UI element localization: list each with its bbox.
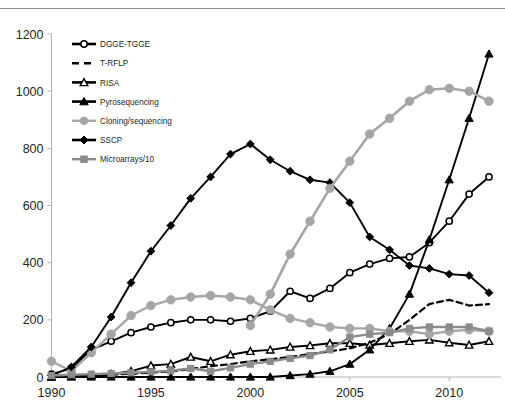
data-point-marker (386, 330, 392, 336)
data-point-marker (147, 301, 155, 309)
y-tick-label: 400 (23, 256, 44, 270)
data-point-marker (346, 157, 354, 165)
data-point-marker (306, 217, 314, 225)
data-point-marker (446, 324, 452, 330)
data-point-marker (485, 50, 493, 57)
data-point-marker (406, 338, 413, 345)
data-point-marker (306, 176, 314, 184)
x-tick-label: 2000 (236, 386, 264, 400)
series-line (250, 88, 489, 325)
data-point-marker (385, 114, 393, 122)
legend-item-label: SSCP (100, 136, 123, 145)
data-point-marker (465, 341, 472, 348)
data-point-marker (465, 87, 473, 95)
data-point-marker (446, 339, 453, 346)
data-point-marker (486, 328, 492, 334)
data-point-marker (425, 86, 433, 94)
legend-item-label: T-RFLP (100, 59, 129, 68)
data-point-marker (207, 368, 213, 374)
data-point-marker (108, 338, 114, 344)
y-tick-label: 1200 (16, 28, 44, 42)
legend-item-dgge-tgge: DGGE-TGGE (72, 40, 151, 49)
data-point-marker (148, 369, 154, 375)
data-point-marker (346, 324, 354, 332)
data-point-marker (406, 325, 412, 331)
legend-item-label: RISA (100, 79, 120, 88)
data-point-marker (128, 330, 134, 336)
data-point-marker (168, 320, 174, 326)
data-point-marker (367, 331, 373, 337)
series-line (52, 177, 490, 374)
data-point-marker (47, 357, 55, 365)
data-point-marker (405, 97, 413, 105)
data-point-marker (168, 368, 174, 374)
data-point-marker (80, 117, 88, 125)
data-point-marker (287, 355, 293, 361)
data-point-marker (48, 372, 54, 378)
y-axis-ticks: 020040060080010001200 (16, 28, 52, 385)
top-divider-rule (0, 8, 505, 9)
data-point-marker (81, 41, 87, 47)
data-point-marker (287, 288, 293, 294)
y-tick-label: 0 (37, 371, 44, 385)
x-tick-label: 1995 (137, 386, 165, 400)
y-tick-label: 1000 (16, 85, 44, 99)
data-point-marker (425, 264, 433, 272)
y-tick-label: 200 (23, 313, 44, 327)
data-point-marker (226, 293, 234, 301)
y-tick-label: 600 (23, 199, 44, 213)
legend-item-label: Pyrosequencing (100, 98, 159, 107)
data-point-marker (485, 97, 493, 105)
legend-item-microarrays-10: Microarrays/10 (72, 155, 155, 164)
data-point-marker (227, 351, 234, 358)
legend-item-sscp: SSCP (72, 136, 123, 145)
data-point-marker (326, 184, 334, 192)
y-tick-label: 800 (23, 142, 44, 156)
data-point-marker (167, 296, 175, 304)
data-point-marker (386, 340, 393, 347)
data-point-marker (286, 250, 294, 258)
x-tick-label: 2010 (435, 386, 463, 400)
data-point-marker (167, 360, 174, 367)
data-point-marker (68, 372, 74, 378)
data-point-marker (81, 156, 87, 162)
data-point-marker (207, 317, 213, 323)
data-point-marker (346, 340, 353, 347)
legend-item-label: Cloning/sequencing (100, 117, 172, 126)
data-point-marker (80, 136, 88, 144)
data-point-marker (187, 353, 194, 360)
data-point-marker (465, 114, 473, 121)
data-point-marker (406, 254, 412, 260)
chart-legend: DGGE-TGGET-RFLPRISAPyrosequencingCloning… (72, 40, 172, 164)
data-point-marker (327, 347, 333, 353)
data-point-marker (307, 295, 313, 301)
data-point-marker (286, 167, 294, 175)
data-point-marker (147, 362, 154, 369)
data-point-marker (445, 270, 453, 278)
data-point-marker (466, 324, 472, 330)
data-point-marker (267, 358, 273, 364)
legend-item-label: DGGE-TGGE (100, 40, 151, 49)
data-point-marker (405, 290, 413, 297)
line-chart-svg: 0200400600800100012001990199520002005201… (0, 0, 505, 418)
data-point-marker (247, 361, 253, 367)
data-point-marker (446, 218, 452, 224)
legend-item-risa: RISA (72, 79, 120, 88)
data-point-marker (425, 330, 433, 338)
data-point-marker (148, 324, 154, 330)
data-point-marker (307, 352, 313, 358)
data-point-marker (88, 371, 94, 377)
data-point-marker (386, 255, 392, 261)
data-point-marker (227, 318, 233, 324)
data-point-marker (286, 343, 293, 350)
x-tick-label: 2005 (336, 386, 364, 400)
data-point-marker (445, 176, 453, 183)
data-point-marker (306, 342, 313, 349)
data-point-marker (108, 370, 114, 376)
data-point-marker (365, 130, 373, 138)
data-point-marker (206, 291, 214, 299)
data-point-marker (266, 306, 274, 314)
legend-item-t-rflp: T-RFLP (72, 59, 129, 68)
data-point-marker (326, 340, 333, 347)
data-point-marker (326, 323, 334, 331)
